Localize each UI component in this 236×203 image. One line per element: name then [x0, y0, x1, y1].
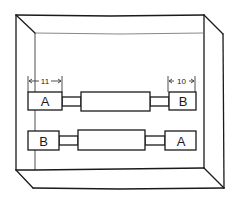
- label-a-row-2: A: [177, 134, 186, 149]
- box-bottom-right-bevel: [204, 168, 224, 188]
- dimension-right-row-1: 10: [168, 76, 195, 92]
- connector-right-row-1: [150, 97, 169, 106]
- inner-top-edge: [35, 33, 204, 34]
- box-top-edge: [16, 15, 204, 16]
- box-right-outer-edge: [223, 34, 224, 188]
- connector-right-row-2: [145, 136, 165, 145]
- box-bottom-left-bevel: [16, 170, 33, 188]
- dimension-label-11: 11: [41, 77, 50, 86]
- rod-body-row-1: [81, 92, 150, 111]
- label-b-row-2: B: [39, 134, 48, 149]
- label-b-row-1: B: [179, 94, 188, 109]
- dimension-left-row-1: 11: [28, 76, 62, 92]
- assembly-row-2: B A: [28, 130, 196, 150]
- inner-bottom-edge: [16, 168, 204, 170]
- rod-body-row-2: [78, 130, 145, 150]
- box-right-bevel: [204, 15, 223, 34]
- dimension-label-10: 10: [177, 77, 186, 86]
- connector-left-row-2: [59, 136, 78, 145]
- box-diagram: 11 10 A B: [0, 0, 236, 203]
- assembly-row-1: 11 10 A B: [28, 76, 196, 111]
- diagram-canvas: 11 10 A B: [0, 0, 236, 203]
- box-bottom-edge: [33, 188, 224, 189]
- connector-left-row-1: [62, 97, 81, 106]
- inner-top-left-bevel: [16, 15, 35, 33]
- label-a-row-1: A: [41, 94, 50, 109]
